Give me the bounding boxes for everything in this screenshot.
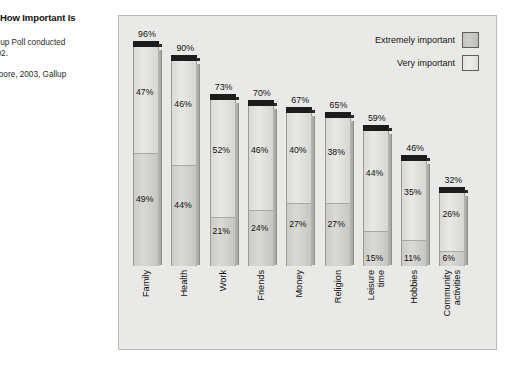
bar-side-face (388, 134, 392, 265)
bar-segment-label-extremely-important: 27% (328, 219, 345, 229)
bar-group[interactable]: 96%47%49%Family (133, 41, 163, 266)
category-label: Religion (325, 270, 351, 350)
bar-side-face (350, 121, 354, 265)
category-label: Friends (248, 270, 274, 350)
bar-segment-extremely-important: 6% (440, 252, 464, 266)
category-label-line: Friends (256, 270, 266, 301)
bar-group[interactable]: 70%46%24%Friends (248, 100, 278, 266)
bar-segment-very-important: 47% (134, 47, 158, 154)
bar-segment-label-extremely-important: 15% (366, 253, 383, 263)
bar-segment-label-extremely-important: 21% (213, 226, 230, 236)
bar-group[interactable]: 59%44%15%Leisuretime (363, 125, 393, 266)
bar-segment-very-important: 35% (402, 161, 426, 241)
bar-total-label: 70% (242, 88, 282, 98)
category-label-line: Work (218, 270, 228, 291)
category-label-text: Health (179, 270, 189, 297)
bar-total-label: 73% (204, 82, 244, 92)
caption-source-line-1: allup Poll conducted (0, 38, 110, 49)
bar-segment-extremely-important: 15% (364, 232, 388, 266)
bar-segment-very-important: 52% (211, 100, 235, 219)
chart-frame: Extremely important Very important 96%47… (118, 15, 497, 350)
bar-side-face (311, 116, 315, 265)
category-label-text: Leisuretime (366, 270, 386, 300)
category-label-text: Family (141, 270, 151, 297)
category-label-text: Hobbies (409, 270, 419, 304)
bar-segment-label-very-important: 35% (404, 187, 421, 197)
bar-segment-extremely-important: 27% (287, 204, 311, 266)
bar-column: 65%38%27%Religion (325, 112, 355, 266)
caption-column: How Important Is allup Poll conducted 00… (0, 12, 110, 81)
bar-segment-label-extremely-important: 11% (404, 253, 421, 263)
bar-segment-label-very-important: 52% (213, 145, 230, 155)
bar-segment-extremely-important: 11% (402, 241, 426, 266)
bar-stack: 40%27% (286, 113, 312, 266)
bar-total-label: 96% (127, 29, 167, 39)
bar-column: 73%52%21%Work (210, 94, 240, 266)
bar-column: 32%26%6%Communityactivities (439, 187, 469, 266)
bar-column: 70%46%24%Friends (248, 100, 278, 266)
bar-side-face (196, 64, 200, 265)
bar-total-label: 67% (280, 95, 320, 105)
bar-total-label: 90% (165, 43, 205, 53)
bar-segment-very-important: 26% (440, 193, 464, 252)
bar-segment-extremely-important: 27% (326, 204, 350, 266)
bar-total-label: 59% (357, 113, 397, 123)
bar-stack: 46%24% (248, 106, 274, 266)
bar-column: 59%44%15%Leisuretime (363, 125, 393, 266)
bar-segment-label-very-important: 47% (136, 87, 153, 97)
category-label-line: Religion (333, 270, 343, 303)
bar-total-label: 46% (395, 143, 435, 153)
category-label: Hobbies (401, 270, 427, 350)
bar-column: 46%35%11%Hobbies (401, 155, 431, 266)
page-title: How Important Is (0, 12, 110, 24)
bar-segment-very-important: 38% (326, 118, 350, 205)
category-label-text: Money (294, 270, 304, 298)
bar-group[interactable]: 65%38%27%Religion (325, 112, 355, 266)
category-label-text: Communityactivities (442, 270, 462, 316)
bar-segment-label-very-important: 26% (442, 209, 459, 219)
bar-segment-label-extremely-important: 24% (251, 223, 268, 233)
category-label: Health (171, 270, 197, 350)
bar-group[interactable]: 46%35%11%Hobbies (401, 155, 431, 266)
bar-group[interactable]: 90%46%44%Health (171, 55, 201, 266)
bar-stack: 38%27% (325, 118, 351, 266)
bar-stack: 52%21% (210, 100, 236, 266)
bar-stack: 46%44% (171, 61, 197, 266)
bar-side-face (273, 109, 277, 265)
category-label-line: Community (442, 270, 452, 316)
category-label-text: Religion (333, 270, 343, 303)
bar-segment-very-important: 46% (172, 61, 196, 166)
caption-source-line-2: 002. (0, 49, 110, 60)
bar-segment-extremely-important: 21% (211, 218, 235, 266)
category-label-line: Hobbies (409, 270, 419, 304)
category-label-line: Family (141, 270, 151, 297)
bar-side-face (426, 164, 430, 265)
category-label: Money (286, 270, 312, 350)
category-label-line: Leisure (366, 270, 376, 300)
bar-stack: 44%15% (363, 131, 389, 266)
bar-side-face (158, 50, 162, 265)
bar-segment-label-very-important: 46% (174, 99, 191, 109)
bar-side-face (464, 196, 468, 265)
bar-segment-label-very-important: 38% (328, 147, 345, 157)
category-label: Communityactivities (439, 270, 465, 350)
category-label-line: Health (179, 270, 189, 297)
category-label-line: activities (452, 270, 462, 316)
bar-group[interactable]: 73%52%21%Work (210, 94, 240, 266)
bar-segment-very-important: 46% (249, 106, 273, 211)
category-label: Work (210, 270, 236, 350)
bar-column: 96%47%49%Family (133, 41, 163, 266)
bar-segment-very-important: 44% (364, 131, 388, 231)
bar-segment-label-very-important: 44% (366, 168, 383, 178)
bar-segment-label-extremely-important: 6% (442, 253, 455, 263)
bar-group[interactable]: 67%40%27%Money (286, 107, 316, 266)
bar-stack: 35%11% (401, 161, 427, 266)
caption-source: allup Poll conducted 002. (0, 38, 110, 59)
bar-segment-extremely-important: 44% (172, 166, 196, 266)
category-label: Family (133, 270, 159, 350)
category-label-line: Money (294, 270, 304, 298)
plot-area: 96%47%49%Family90%46%44%Health73%52%21%W… (119, 16, 498, 351)
bar-segment-label-extremely-important: 49% (136, 194, 153, 204)
bar-segment-label-very-important: 46% (251, 145, 268, 155)
bar-group[interactable]: 32%26%6%Communityactivities (439, 187, 469, 266)
